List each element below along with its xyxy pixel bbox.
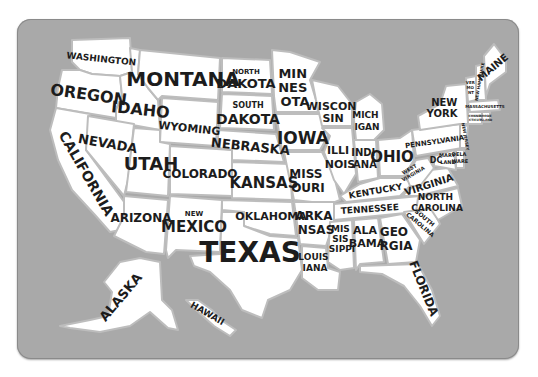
label-hawaii: HAWAII bbox=[189, 300, 226, 327]
label-colorado: COLORADO bbox=[162, 167, 237, 181]
label-new-mexico-top: NEW bbox=[185, 210, 204, 218]
label-rhode-island: RHODE ISLAND bbox=[480, 114, 493, 122]
label-georgia: GEO RGIA bbox=[380, 225, 414, 253]
label-north-carolina: NORTH CAROLINA bbox=[411, 192, 463, 213]
usa-map: WASHINGTON OREGON CALIFORNIA IDAHO NEVAD… bbox=[17, 19, 519, 359]
label-north-dakota: DAKOTA bbox=[216, 76, 275, 91]
label-new-york: NEW YORK bbox=[426, 97, 461, 119]
label-massachusetts: MASSACHUSETTS bbox=[465, 104, 504, 109]
label-south-dakota: DAKOTA bbox=[216, 111, 280, 127]
label-kansas: KANSAS bbox=[229, 174, 298, 192]
label-texas: TEXAS bbox=[199, 236, 301, 269]
label-new-mexico: MEXICO bbox=[161, 218, 227, 236]
label-iowa: IOWA bbox=[277, 128, 330, 148]
label-ohio: OHIO bbox=[370, 148, 414, 166]
map-card: WASHINGTON OREGON CALIFORNIA IDAHO NEVAD… bbox=[17, 19, 519, 359]
label-north-dakota-top: NORTH bbox=[232, 68, 260, 76]
label-missouri: MISS OURI bbox=[289, 167, 326, 195]
label-south-dakota-top: SOUTH bbox=[232, 101, 263, 110]
label-louisiana: LOUIS IANA bbox=[298, 252, 331, 273]
label-delaware: DELA WARE bbox=[452, 151, 469, 164]
